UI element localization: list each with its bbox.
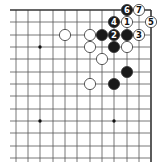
move-number-label: 5 (148, 17, 154, 27)
white-stone (84, 41, 95, 52)
star-point-icon (38, 45, 41, 48)
black-stone (108, 78, 119, 89)
black-stone: 6 (121, 4, 132, 15)
white-stone: 5 (145, 16, 156, 27)
black-stone: 2 (108, 29, 119, 40)
go-board: 6741523 (0, 0, 165, 167)
move-number-label: 4 (111, 17, 117, 27)
move-number-label: 1 (124, 17, 130, 27)
white-stone: 1 (121, 16, 132, 27)
white-stone (96, 53, 107, 64)
move-number-label: 7 (136, 5, 142, 15)
white-stone (84, 78, 95, 89)
move-number-label: 6 (124, 5, 130, 15)
white-stone: 3 (133, 29, 144, 40)
move-number-label: 3 (136, 30, 142, 40)
white-stone: 7 (133, 4, 144, 15)
black-stone (121, 66, 132, 77)
white-stone (121, 41, 132, 52)
black-stone (96, 29, 107, 40)
black-stone (108, 41, 119, 52)
black-stone: 4 (108, 16, 119, 27)
black-stone (121, 29, 132, 40)
star-point-icon (38, 119, 41, 122)
white-stone (84, 29, 95, 40)
star-point-icon (112, 119, 115, 122)
white-stone (59, 29, 70, 40)
move-number-label: 2 (111, 30, 117, 40)
